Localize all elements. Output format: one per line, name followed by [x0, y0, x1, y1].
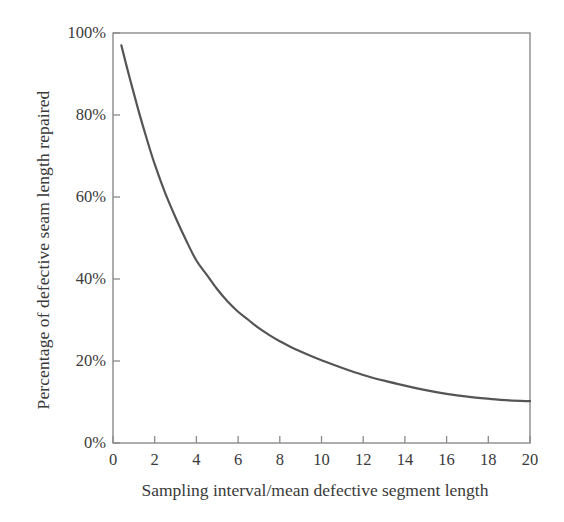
x-axis-title: Sampling interval/mean defective segment… [80, 480, 550, 501]
x-tick-label: 14 [385, 450, 425, 470]
x-tick-label: 10 [302, 450, 342, 470]
chart-figure: 0%20%40%60%80%100% 02468101214161820 Per… [0, 0, 564, 522]
x-tick-label: 16 [427, 450, 467, 470]
x-tick-label: 20 [510, 450, 550, 470]
y-axis-ticks [113, 33, 120, 443]
x-tick-label: 8 [260, 450, 300, 470]
x-tick-label: 2 [135, 450, 175, 470]
y-axis-title: Percentage of defective seam length repa… [26, 20, 60, 480]
data-series-line [121, 45, 530, 401]
x-tick-label: 12 [343, 450, 383, 470]
x-axis-tick-labels: 02468101214161820 [0, 450, 564, 476]
x-tick-label: 18 [468, 450, 508, 470]
x-tick-label: 6 [218, 450, 258, 470]
plot-frame [113, 33, 530, 443]
x-axis-ticks [113, 436, 530, 443]
x-tick-label: 0 [93, 450, 133, 470]
x-tick-label: 4 [176, 450, 216, 470]
